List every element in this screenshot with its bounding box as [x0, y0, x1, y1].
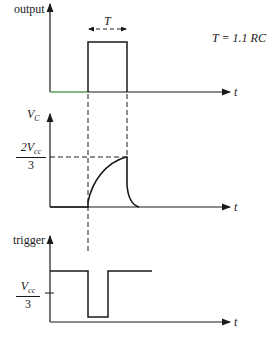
- vc-panel: [50, 114, 230, 207]
- trigger-waveform: [50, 271, 152, 317]
- vc-t-label: t: [234, 201, 237, 213]
- trigger-panel: [45, 236, 230, 322]
- timing-diagram: [0, 0, 269, 348]
- formula-label: T = 1.1 RC: [212, 32, 266, 44]
- period-label: T: [104, 15, 111, 27]
- vc-axis-label: VC: [27, 108, 40, 123]
- trigger-axis-label: trigger: [13, 234, 45, 246]
- trigger-t-label: t: [234, 316, 237, 328]
- output-t-label: t: [234, 86, 237, 98]
- trigger-level-label: Vcc 3: [16, 280, 40, 310]
- output-panel: [50, 4, 230, 92]
- output-pulse: [88, 42, 127, 92]
- vc-threshold-label: 2Vcc 3: [16, 141, 46, 171]
- output-axis-label: output: [14, 3, 45, 15]
- vc-curve: [50, 157, 139, 207]
